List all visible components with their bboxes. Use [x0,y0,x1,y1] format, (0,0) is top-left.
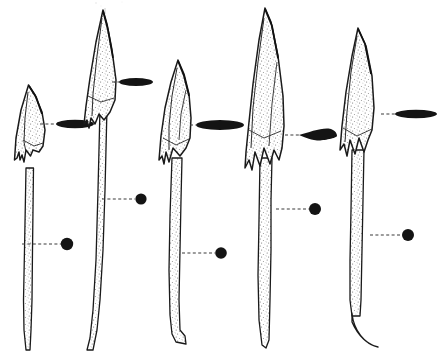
lenticular-section-marker [395,110,437,118]
figure-plate [0,0,439,357]
circular-section-marker [309,203,321,215]
circular-section-marker [215,247,227,259]
lenticular-section-marker [196,120,244,130]
spearhead-4-shaft [258,158,272,348]
circular-section-marker [135,193,146,204]
lenticular-section-marker [119,78,153,86]
circular-section-marker [402,229,414,241]
circular-section-marker [61,238,73,250]
spearhead-illustration [0,0,439,357]
plate-background [0,0,439,357]
